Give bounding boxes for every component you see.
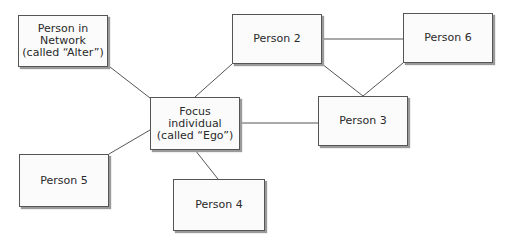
- edge-ego-person5: [109, 130, 150, 154]
- node-person-2: Person 2: [232, 14, 322, 64]
- node-person-5: Person 5: [19, 154, 109, 207]
- edge-ego-person4: [195, 150, 218, 179]
- edge-person2-person3: [322, 64, 363, 96]
- node-alter: Person in Network (called “Alter”): [18, 15, 108, 67]
- edge-person6-person3: [363, 63, 403, 96]
- node-person-4: Person 4: [173, 179, 265, 231]
- edge-ego-person2: [195, 64, 232, 97]
- node-ego: Focus individual (called “Ego”): [150, 97, 240, 150]
- edge-alter-ego: [110, 67, 150, 98]
- node-person-3: Person 3: [318, 96, 408, 146]
- node-person-6: Person 6: [403, 13, 493, 63]
